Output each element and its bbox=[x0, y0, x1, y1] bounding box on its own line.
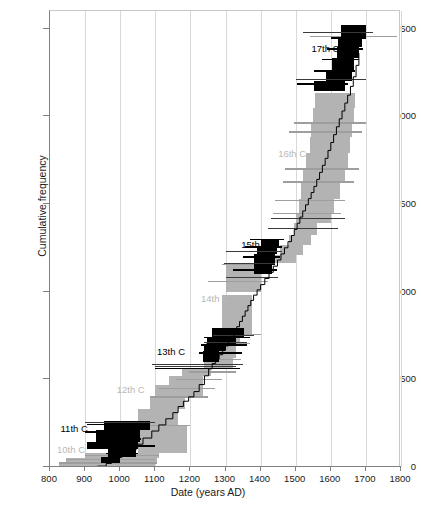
uncertainty-band-segment bbox=[150, 397, 185, 409]
date-range-bar bbox=[289, 131, 363, 132]
date-range-bar bbox=[87, 424, 143, 426]
uncertainty-band-segment bbox=[301, 183, 340, 199]
y-axis-label: Cumulative frequency bbox=[36, 116, 48, 296]
uncertainty-band-segment bbox=[169, 376, 202, 385]
date-range-bar bbox=[285, 168, 359, 169]
century-label: 15th C bbox=[241, 238, 269, 249]
date-range-bar bbox=[322, 59, 359, 61]
date-range-bar bbox=[159, 388, 215, 389]
x-tick-mark bbox=[400, 466, 401, 471]
uncertainty-band-segment bbox=[280, 245, 303, 255]
uncertainty-band-segment bbox=[310, 137, 350, 153]
gridline bbox=[226, 11, 227, 467]
range-hairline bbox=[226, 277, 279, 278]
uncertainty-band-segment bbox=[226, 281, 261, 292]
date-block bbox=[207, 337, 236, 344]
date-range-bar bbox=[243, 256, 280, 258]
date-range-bar bbox=[106, 453, 138, 455]
date-range-bar bbox=[201, 344, 247, 346]
century-label: 11th C bbox=[61, 423, 88, 434]
range-hairline bbox=[268, 228, 338, 229]
century-label: 12th C bbox=[117, 384, 145, 395]
date-range-bar bbox=[85, 431, 136, 433]
x-tick-mark bbox=[49, 466, 50, 471]
date-range-bar bbox=[331, 37, 366, 39]
century-label: 13th C bbox=[157, 345, 185, 356]
date-range-bar bbox=[99, 438, 141, 440]
date-range-bar bbox=[204, 337, 250, 339]
x-tick-mark bbox=[330, 466, 331, 471]
uncertainty-band-segment bbox=[306, 153, 348, 169]
date-range-bar bbox=[233, 269, 278, 271]
range-hairline bbox=[224, 263, 275, 264]
gridline bbox=[120, 11, 121, 467]
uncertainty-band-segment bbox=[294, 223, 317, 235]
date-range-bar bbox=[208, 281, 268, 282]
gridline bbox=[366, 11, 367, 467]
date-range-bar bbox=[155, 368, 239, 370]
date-range-bar bbox=[176, 379, 222, 380]
uncertainty-band-segment bbox=[289, 235, 312, 245]
x-tick-mark bbox=[225, 466, 226, 471]
range-hairline bbox=[213, 335, 253, 336]
range-hairline bbox=[204, 342, 246, 343]
range-hairline bbox=[296, 79, 366, 80]
x-tick-mark bbox=[84, 466, 85, 471]
date-range-bar bbox=[189, 371, 236, 372]
range-hairline bbox=[303, 32, 373, 33]
range-hairline bbox=[226, 251, 282, 252]
range-hairline bbox=[155, 366, 236, 367]
century-label: 10th C bbox=[57, 443, 85, 454]
plot-area: 10th C11th C12th C13th C14th C15th C16th… bbox=[49, 10, 400, 466]
uncertainty-band-segment bbox=[315, 93, 355, 108]
gridline bbox=[85, 11, 86, 467]
uncertainty-band-segment bbox=[313, 108, 353, 123]
date-range-bar bbox=[275, 200, 345, 201]
x-tick-mark bbox=[365, 466, 366, 471]
century-label: 17th C bbox=[311, 42, 339, 53]
date-range-bar bbox=[314, 70, 355, 72]
century-label: 14th C bbox=[201, 292, 229, 303]
x-tick-mark bbox=[189, 466, 190, 471]
date-range-bar bbox=[150, 396, 208, 397]
century-label: 16th C bbox=[278, 148, 306, 159]
x-tick-mark bbox=[119, 466, 120, 471]
date-range-bar bbox=[283, 181, 353, 182]
range-hairline bbox=[152, 364, 243, 365]
gridline bbox=[401, 11, 402, 467]
uncertainty-band-segment bbox=[155, 385, 202, 397]
x-axis-label: Date (years AD) bbox=[0, 486, 416, 498]
x-tick-label: 1800 bbox=[378, 473, 421, 484]
date-range-bar bbox=[273, 213, 341, 214]
x-tick-mark bbox=[154, 466, 155, 471]
date-range-bar bbox=[297, 83, 347, 85]
date-block bbox=[101, 457, 120, 463]
uncertainty-band-segment bbox=[311, 123, 351, 137]
date-range-bar bbox=[294, 122, 366, 123]
range-hairline bbox=[271, 218, 345, 219]
x-tick-mark bbox=[295, 466, 296, 471]
x-tick-mark bbox=[260, 466, 261, 471]
gridline bbox=[190, 11, 191, 467]
date-range-bar bbox=[199, 352, 242, 354]
date-range-bar bbox=[97, 445, 155, 447]
range-hairline bbox=[85, 422, 155, 423]
